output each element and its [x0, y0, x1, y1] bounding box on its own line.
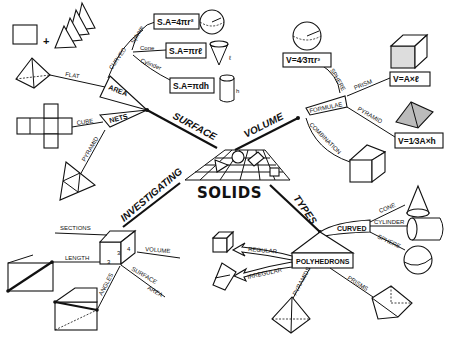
curved-label: CURVED — [108, 46, 128, 71]
regular-cube-icon — [213, 232, 233, 252]
pyramid-net-icon — [60, 162, 95, 200]
square-plus-triangles-icon: + — [13, 3, 95, 48]
sphere-vol-label: SPHERE — [329, 68, 347, 92]
curved-types-label: CURVED — [337, 225, 366, 232]
cube-net-label: CUBE — [76, 118, 93, 126]
sphere-icon — [200, 10, 224, 34]
square-pyramid-icon — [16, 58, 50, 88]
sphere-sa-formula: S.A=4πr² — [157, 17, 194, 27]
pyramid-vol-icon — [396, 102, 433, 128]
sphere-vol-icon — [293, 22, 321, 50]
sphere-sa-label: Sphere — [130, 24, 145, 44]
polyhedrons-roof — [292, 232, 353, 253]
cylinder-icon: h — [220, 75, 239, 102]
rectangular-prism-icon — [391, 35, 427, 68]
pyramid-net-label: PYRAMID — [81, 135, 100, 162]
svg-text:h: h — [236, 88, 239, 94]
sections-label: SECTIONS — [60, 225, 91, 231]
sphere-type-icon — [404, 246, 432, 274]
combination-solid-icon — [350, 145, 385, 182]
pyramid-vol-formula: V=1⁄3A×h — [398, 136, 436, 146]
cone-sa-formula: S.A=πrℓ — [169, 46, 202, 56]
cylinder-sa-formula: S.A=πdh — [173, 81, 209, 91]
cone-type-icon — [407, 186, 429, 217]
sphere-vol-formula: V=4⁄3πr³ — [286, 55, 320, 65]
prism-vol-formula: V=A×ℓ — [393, 74, 419, 84]
cube-diagonal-icon — [6, 255, 54, 293]
investigating-cube-icon: 3 3 4 — [100, 231, 135, 265]
svg-text:+: + — [43, 35, 49, 47]
investigating-label: INVESTIGATING — [118, 165, 184, 223]
cone-sa-label: Cone — [140, 45, 155, 51]
length-label: LENGTH — [65, 255, 89, 261]
pyramids-label: PYRAMIDS — [292, 266, 312, 296]
center-title: SOLIDS — [197, 184, 262, 202]
prisms-label: PRISMS — [346, 275, 369, 292]
area-investigate-label: AREA — [147, 285, 164, 298]
svg-text:ℓ: ℓ — [229, 55, 231, 61]
sphere-type-label: SPHERE — [377, 233, 402, 249]
solids-mind-map: SOLIDS SURFACE AREA NETS FLAT + CURVED S… — [0, 0, 451, 344]
combination-label: COMBINATION — [308, 121, 342, 155]
cone-icon: ℓ — [210, 41, 231, 65]
cone-type-label: CONE — [378, 202, 396, 214]
pyramid-type-icon — [272, 297, 310, 333]
center-grid-platform — [185, 150, 290, 180]
volume-node-dot — [296, 116, 300, 120]
cylinder-type-label: CYLINDER — [374, 219, 405, 225]
volume-investigate-label: VOLUME — [145, 246, 171, 254]
polyhedrons-label: POLYHEDRONS — [296, 258, 350, 265]
cube-net-icon — [17, 104, 72, 148]
prism-type-icon — [372, 286, 412, 319]
irregular-polyhedron-icon — [213, 263, 236, 290]
cylinder-type-icon — [407, 218, 443, 240]
cube-angle-icon — [53, 288, 99, 330]
